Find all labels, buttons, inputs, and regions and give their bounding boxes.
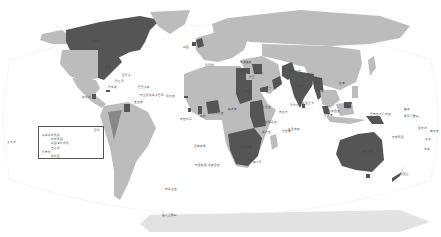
country-label: 斐济 — [425, 137, 431, 141]
country-label: 伊拉克 — [255, 71, 264, 75]
country-label: 巴巴多斯 — [138, 85, 150, 89]
country-label: 赞比亚 — [262, 130, 271, 134]
country-label: 文莱 — [346, 105, 352, 109]
legend-row-6: 保护国 — [51, 155, 60, 158]
country-label: 尼日利亚 — [212, 111, 224, 115]
country-label: 孟加拉 — [311, 81, 320, 85]
country-label: 苏丹 — [244, 89, 250, 93]
country-label: 亚丁 — [266, 87, 272, 90]
country-label: 巴布亚新几内亚 — [370, 112, 391, 116]
country-label: 汤加 — [424, 147, 430, 151]
country-label: 所罗门群岛 — [404, 114, 419, 118]
country-label: 马来西亚 — [328, 109, 340, 113]
legend-row-4: 自治领 — [51, 147, 60, 150]
country-label: 阿曼 — [275, 81, 281, 85]
country-label: 喀麦隆 — [228, 107, 237, 111]
country-label: 塞浦路斯 — [240, 60, 252, 64]
land-gambia — [184, 96, 188, 98]
ocean-label: 太平洋 — [7, 140, 16, 144]
country-label: 肯尼亚 — [262, 105, 271, 109]
country-label: 埃及 — [241, 69, 247, 73]
country-label: 牙买加 — [108, 85, 117, 89]
country-label: 图瓦卢 — [418, 126, 427, 130]
land-ireland — [192, 42, 196, 46]
country-label: 美国 — [105, 65, 111, 69]
land-belize — [92, 94, 96, 99]
land-russia — [228, 10, 410, 46]
country-label: 福克兰群岛 — [162, 213, 177, 217]
legend-row-1: 英联邦成员国 — [42, 134, 60, 137]
land-alaska — [40, 30, 70, 44]
country-label: 巴基斯坦 — [289, 69, 301, 73]
country-label: 坦桑尼亚 — [265, 120, 277, 124]
legend-row-5: 托管地 — [42, 151, 51, 154]
legend-box: 图例 英联邦成员国 前成员国 英国海外领地 自治领 托管地 保护国 — [38, 126, 104, 159]
legend-title: 图例 — [94, 129, 100, 132]
country-label: 特里斯坦-达库尼亚 — [195, 163, 220, 167]
country-label: 香港 — [339, 81, 345, 85]
country-label: 伯利兹 — [82, 95, 91, 99]
land-philippines — [352, 86, 358, 98]
country-label: 新西兰 — [400, 172, 409, 176]
legend-row-3: 英国海外领地 — [51, 142, 69, 145]
country-label: 瓦努阿图 — [392, 135, 404, 139]
country-label: 冈比亚 — [166, 94, 175, 98]
land-sierra-leone — [188, 108, 191, 112]
country-label: 新加坡 — [324, 113, 333, 117]
country-label: 塞舌尔 — [279, 110, 288, 114]
country-label: 毛里求斯 — [288, 127, 300, 131]
country-label: 百慕大 — [122, 73, 131, 77]
country-label: 印度 — [297, 84, 303, 88]
country-label: 加拿大 — [92, 39, 101, 43]
country-label: 南乔治亚 — [165, 187, 177, 191]
country-label: 马尔代夫 — [290, 103, 302, 107]
country-label: 加纳 — [200, 114, 206, 118]
land-guyana — [124, 104, 130, 112]
country-label: 约旦 — [249, 75, 255, 79]
world-map: 加拿大美国百慕大巴哈马牙买加伯利兹巴巴多斯特立尼达和多巴哥圭亚那英国马耳他塞浦路… — [0, 0, 441, 237]
country-label: 瑙鲁 — [404, 107, 410, 111]
country-label: 圣赫勒拿 — [194, 144, 206, 148]
country-label: 圭亚那 — [134, 100, 143, 104]
country-label: 马耳他 — [205, 63, 214, 67]
country-label: 巴哈马 — [115, 79, 124, 83]
country-label: 澳大利亚 — [362, 149, 374, 153]
country-label: 塞拉利昂 — [180, 117, 192, 121]
country-label: 特立尼达和多巴哥 — [140, 93, 164, 97]
legend-row-2: 前成员国 — [51, 138, 63, 141]
country-label: 斯里兰卡 — [302, 101, 314, 105]
country-label: 萨摩亚 — [430, 129, 439, 133]
country-label: 缅甸 — [318, 89, 324, 93]
land-tasmania — [366, 174, 370, 178]
country-label: 博茨瓦纳 — [240, 145, 252, 149]
land-ghana — [198, 106, 202, 114]
country-label: 英国 — [183, 45, 189, 49]
country-label: 莱索托 — [253, 160, 262, 164]
land-jamaica — [106, 90, 110, 92]
